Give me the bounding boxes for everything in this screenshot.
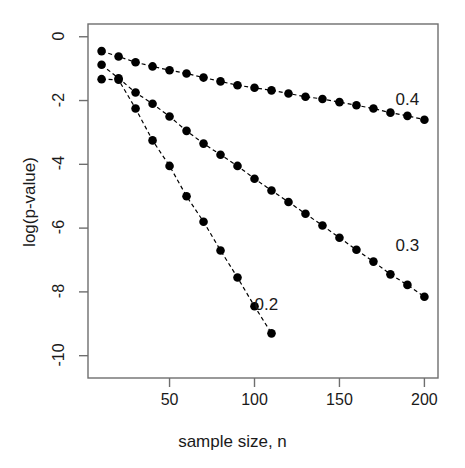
y-tick-label: -2 bbox=[50, 80, 68, 120]
data-point bbox=[182, 127, 191, 136]
data-point bbox=[165, 112, 174, 121]
data-point bbox=[250, 174, 259, 183]
data-point bbox=[165, 66, 174, 75]
data-point bbox=[386, 108, 395, 117]
x-tick-label: 100 bbox=[225, 391, 285, 409]
data-point bbox=[97, 47, 106, 56]
data-point bbox=[403, 112, 412, 121]
data-point bbox=[369, 257, 378, 266]
data-point bbox=[301, 92, 310, 101]
x-axis-ticks bbox=[170, 378, 425, 387]
data-point bbox=[267, 86, 276, 95]
data-point bbox=[114, 76, 123, 85]
y-tick-label: -6 bbox=[50, 207, 68, 247]
y-tick-label: -4 bbox=[50, 143, 68, 183]
data-point bbox=[233, 81, 242, 90]
y-tick-label: -10 bbox=[50, 335, 68, 375]
data-point bbox=[250, 83, 259, 92]
data-point bbox=[97, 75, 106, 84]
data-point bbox=[182, 69, 191, 78]
data-point bbox=[420, 115, 429, 124]
series-label-0.3: 0.3 bbox=[396, 236, 420, 256]
data-point bbox=[97, 61, 106, 70]
x-tick-label: 50 bbox=[140, 391, 200, 409]
data-point bbox=[148, 136, 157, 145]
y-tick-label: 0 bbox=[50, 16, 68, 56]
data-point bbox=[148, 62, 157, 71]
data-point bbox=[352, 101, 361, 110]
data-point bbox=[199, 73, 208, 82]
data-point bbox=[165, 162, 174, 171]
data-point bbox=[335, 233, 344, 242]
data-point bbox=[131, 104, 140, 113]
data-point bbox=[131, 58, 140, 67]
data-point bbox=[284, 198, 293, 207]
data-point bbox=[301, 209, 310, 218]
data-point bbox=[267, 186, 276, 195]
data-point bbox=[233, 162, 242, 171]
data-point bbox=[369, 104, 378, 113]
y-tick-label: -8 bbox=[50, 271, 68, 311]
series-points bbox=[97, 47, 428, 338]
data-point bbox=[199, 139, 208, 148]
plot-box bbox=[88, 24, 438, 378]
data-point bbox=[284, 89, 293, 98]
data-point bbox=[216, 150, 225, 159]
data-point bbox=[148, 99, 157, 108]
data-point bbox=[216, 246, 225, 255]
data-point bbox=[403, 281, 412, 290]
data-point bbox=[318, 95, 327, 104]
data-point bbox=[335, 98, 344, 107]
data-point bbox=[386, 270, 395, 279]
y-axis-title: log(p-value) bbox=[20, 122, 40, 282]
series-label-0.4: 0.4 bbox=[396, 90, 420, 110]
x-axis-title: sample size, n bbox=[0, 432, 465, 452]
data-point bbox=[233, 273, 242, 282]
series-line-0.2 bbox=[102, 79, 272, 333]
figure-container: sample size, n log(p-value) 50100150200 … bbox=[0, 0, 465, 468]
data-point bbox=[114, 52, 123, 61]
x-tick-label: 150 bbox=[309, 391, 369, 409]
data-point bbox=[131, 88, 140, 97]
data-point bbox=[182, 192, 191, 201]
series-lines bbox=[102, 51, 425, 333]
data-point bbox=[420, 292, 429, 301]
y-axis-ticks bbox=[79, 37, 88, 356]
x-tick-label: 200 bbox=[394, 391, 454, 409]
data-point bbox=[318, 221, 327, 230]
data-point bbox=[199, 217, 208, 226]
data-point bbox=[216, 77, 225, 86]
data-point bbox=[267, 329, 276, 338]
data-point bbox=[352, 245, 361, 254]
series-label-0.2: 0.2 bbox=[255, 295, 279, 315]
